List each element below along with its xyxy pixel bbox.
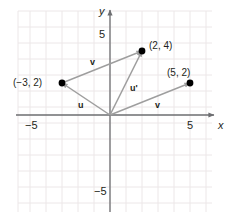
y-tick-label-neg5: −5 [94, 186, 107, 197]
y-tick-label-pos5: 5 [99, 29, 105, 40]
vector-u [62, 83, 110, 115]
grid-lines [18, 11, 212, 212]
x-tick-label-pos5: 5 [187, 120, 193, 131]
vector-addition-graph [0, 0, 235, 223]
point-5-2 [187, 80, 194, 87]
point-label-5-2: (5, 2) [167, 68, 190, 78]
vector-label-v: v [155, 101, 160, 110]
vector-label-u-prime: u' [130, 84, 138, 93]
point-minus3-2 [59, 80, 66, 87]
vector-v-translated [62, 51, 142, 83]
point-label-2-4: (2, 4) [149, 41, 172, 51]
y-axis-label: y [99, 6, 105, 17]
point-label-minus3-2: (−3, 2) [13, 78, 42, 88]
vector-label-u: u [78, 101, 84, 110]
x-axis-label: x [218, 120, 224, 131]
point-2-4 [139, 48, 146, 55]
x-tick-label-neg5: −5 [25, 120, 38, 131]
vector-label-v-translated: v [90, 58, 95, 67]
vector-v [110, 83, 190, 115]
